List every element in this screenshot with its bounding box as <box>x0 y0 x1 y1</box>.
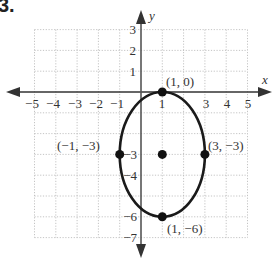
point-label-left: (−1, −3) <box>57 138 100 153</box>
arrow-down-icon <box>136 244 146 258</box>
svg-text:−3: −3 <box>123 147 137 162</box>
arrow-right-icon <box>258 87 272 97</box>
point-label-top: (1, 0) <box>166 74 194 89</box>
ellipse-graph: x y −5 −4 −3 −2 −1 1 3 4 5 3 2 1 −3 −4 −… <box>0 0 278 266</box>
y-axis-label: y <box>147 8 155 23</box>
svg-text:−4: −4 <box>46 96 60 111</box>
svg-text:−2: −2 <box>89 96 103 111</box>
svg-text:3: 3 <box>130 22 137 37</box>
svg-text:3: 3 <box>203 96 210 111</box>
svg-text:5: 5 <box>245 96 252 111</box>
svg-text:1: 1 <box>130 64 137 79</box>
point-vertex-bottom <box>158 212 167 221</box>
point-covertex-left <box>115 150 124 159</box>
svg-text:−7: −7 <box>123 230 137 245</box>
arrow-up-icon <box>136 10 146 24</box>
point-label-right: (3, −3) <box>208 138 244 153</box>
x-axis-label: x <box>261 72 268 87</box>
svg-text:4: 4 <box>224 96 231 111</box>
point-center <box>158 150 167 159</box>
svg-text:−6: −6 <box>123 209 137 224</box>
svg-text:2: 2 <box>130 43 137 58</box>
svg-text:1: 1 <box>159 96 166 111</box>
point-label-bottom: (1, −6) <box>167 221 203 236</box>
svg-text:−1: −1 <box>110 96 124 111</box>
svg-text:−3: −3 <box>68 96 82 111</box>
arrow-left-icon <box>6 87 20 97</box>
svg-text:−4: −4 <box>123 168 137 183</box>
svg-text:−5: −5 <box>25 96 39 111</box>
